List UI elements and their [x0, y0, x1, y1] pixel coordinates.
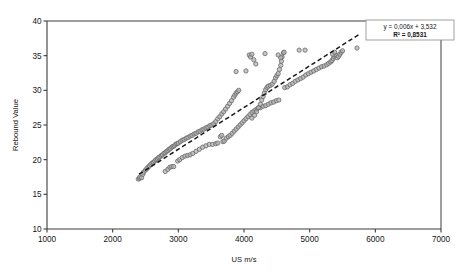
x-axis-title: US m/s [232, 255, 257, 264]
data-point [244, 69, 248, 73]
y-tick-label: 15 [32, 190, 42, 199]
y-tick-label: 30 [32, 86, 42, 95]
data-point [277, 67, 281, 71]
chart-background [0, 0, 466, 277]
x-tick-label: 2000 [104, 235, 123, 244]
chart-figure: 1015202530354010002000300040005000600070… [0, 0, 466, 277]
data-point [355, 46, 359, 50]
data-point [216, 141, 220, 145]
equation-box: y = 0,006x + 3,532R² = 0,8531 [366, 20, 454, 40]
data-point [279, 63, 283, 67]
scatter-plot-svg: 1015202530354010002000300040005000600070… [0, 0, 466, 277]
x-tick-label: 7000 [432, 235, 451, 244]
y-tick-label: 20 [32, 156, 42, 165]
data-point [279, 56, 283, 60]
data-point [340, 49, 344, 53]
x-tick-label: 4000 [235, 235, 254, 244]
data-point [254, 110, 258, 114]
data-point [303, 48, 307, 52]
y-axis-title: Rebound Value [11, 99, 20, 151]
data-point [172, 164, 176, 168]
data-point [297, 48, 301, 52]
y-tick-label: 25 [32, 121, 42, 130]
data-point [237, 88, 241, 92]
data-point [234, 69, 238, 73]
y-tick-label: 10 [32, 225, 42, 234]
data-point [276, 72, 280, 76]
y-tick-label: 40 [32, 17, 42, 26]
equation-line-2: R² = 0,8531 [393, 31, 427, 39]
equation-line-1: y = 0,006x + 3,532 [384, 23, 437, 31]
x-tick-label: 1000 [38, 235, 57, 244]
data-point [277, 98, 281, 102]
x-tick-label: 3000 [169, 235, 188, 244]
data-point [220, 133, 224, 137]
data-point [282, 50, 286, 54]
x-tick-label: 5000 [301, 235, 320, 244]
data-point [263, 51, 267, 55]
data-point [258, 102, 262, 106]
data-point [250, 52, 254, 56]
y-tick-label: 35 [32, 52, 42, 61]
data-point [252, 58, 256, 62]
data-point [254, 62, 258, 66]
x-tick-label: 6000 [366, 235, 385, 244]
